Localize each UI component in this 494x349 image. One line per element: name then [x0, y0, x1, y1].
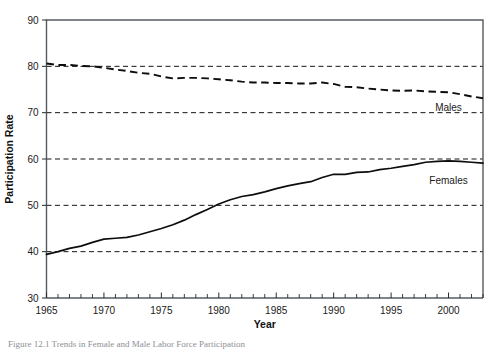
y-axis-tick-labels-group: 30405060708090 — [27, 15, 39, 304]
y-tick-label-90: 90 — [27, 15, 39, 26]
x-tick-label-1975: 1975 — [150, 305, 173, 316]
plot-frame-outline — [47, 20, 484, 298]
x-axis-tick-labels-group: 19651970197519801985199019952000 — [35, 305, 460, 316]
series-annotations-group: MalesFemales — [429, 102, 467, 186]
x-tick-label-1985: 1985 — [265, 305, 288, 316]
y-tick-label-80: 80 — [27, 61, 39, 72]
y-tick-label-70: 70 — [27, 107, 39, 118]
x-tick-label-1990: 1990 — [323, 305, 346, 316]
x-axis-ticks-group — [47, 293, 484, 299]
plot-frame — [47, 20, 484, 298]
x-tick-label-1980: 1980 — [208, 305, 231, 316]
figure-caption: Figure 12.1 Trends in Female and Male La… — [8, 339, 478, 349]
y-tick-label-60: 60 — [27, 154, 39, 165]
data-series-group — [47, 64, 484, 255]
gridlines-group — [47, 66, 484, 251]
series-line-females — [47, 161, 484, 255]
x-tick-label-1995: 1995 — [380, 305, 403, 316]
x-tick-label-2000: 2000 — [437, 305, 460, 316]
series-annotation-females: Females — [429, 175, 467, 186]
y-tick-label-30: 30 — [27, 293, 39, 304]
y-tick-label-50: 50 — [27, 200, 39, 211]
series-line-males — [47, 64, 484, 99]
x-tick-label-1965: 1965 — [35, 305, 58, 316]
series-annotation-males: Males — [435, 102, 462, 113]
x-axis-title: Year — [254, 318, 276, 330]
y-tick-label-40: 40 — [27, 246, 39, 257]
y-axis-title: Participation Rate — [3, 114, 15, 203]
x-tick-label-1970: 1970 — [93, 305, 116, 316]
